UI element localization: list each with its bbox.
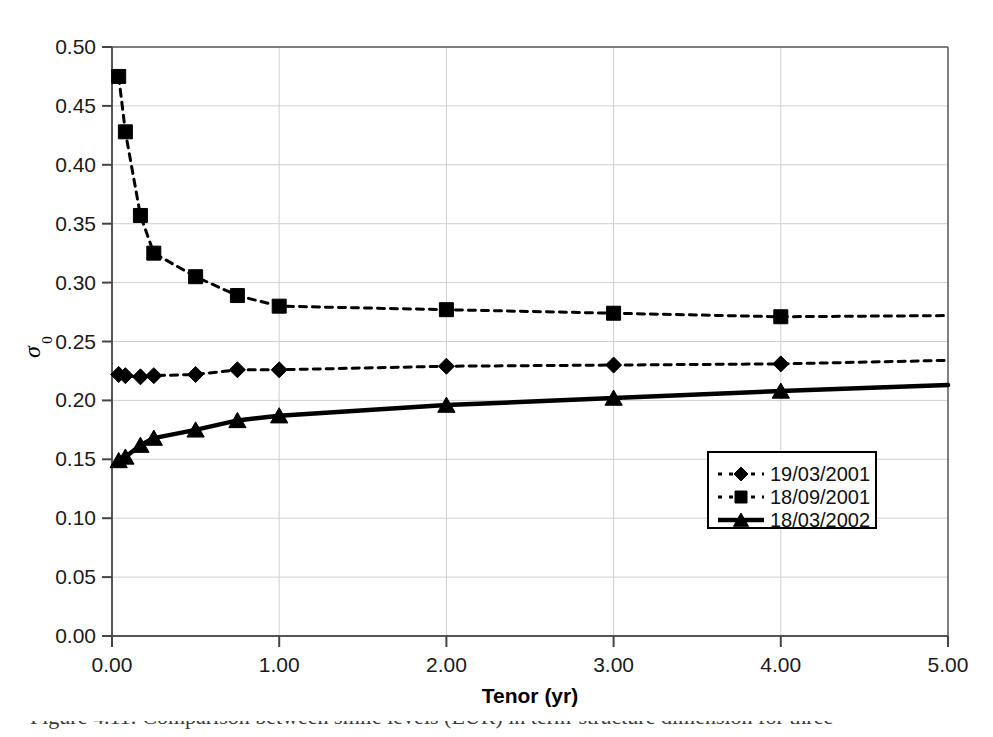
- y-tick-label: 0.30: [55, 271, 96, 294]
- y-tick-label: 0.35: [55, 212, 96, 235]
- legend-marker-square: [735, 491, 747, 503]
- figure-caption-strip: Figure 4.11: Comparison between smile le…: [0, 721, 993, 737]
- y-tick-label: 0.45: [55, 94, 96, 117]
- legend-label: 18/09/2001: [770, 486, 870, 508]
- data-point-square: [112, 69, 126, 83]
- y-axis-title-sigma: σ: [19, 345, 45, 358]
- data-point-square: [439, 303, 453, 317]
- chart-legend: 19/03/200118/09/200118/03/2002: [708, 452, 876, 531]
- x-tick-label: 1.00: [259, 653, 300, 676]
- y-tick-label: 0.40: [55, 153, 96, 176]
- y-tick-label: 0.15: [55, 447, 96, 470]
- x-axis-title: Tenor (yr): [482, 684, 578, 707]
- y-tick-label: 0.25: [55, 330, 96, 353]
- y-tick-label: 0.50: [55, 35, 96, 58]
- data-point-square: [272, 299, 286, 313]
- x-tick-label: 5.00: [928, 653, 969, 676]
- y-tick-label: 0.10: [55, 506, 96, 529]
- data-point-square: [133, 208, 147, 222]
- y-tick-label: 0.00: [55, 624, 96, 647]
- y-axis-title-subscript: 0: [39, 336, 55, 344]
- y-tick-label: 0.20: [55, 388, 96, 411]
- data-point-square: [189, 270, 203, 284]
- chart-figure: 0.000.050.100.150.200.250.300.350.400.45…: [0, 0, 993, 737]
- data-point-square: [147, 246, 161, 260]
- legend-label: 18/03/2002: [770, 509, 870, 531]
- legend-label: 19/03/2001: [770, 463, 870, 485]
- volatility-term-structure-chart: 0.000.050.100.150.200.250.300.350.400.45…: [0, 0, 993, 737]
- chart-background: [0, 0, 993, 737]
- data-point-square: [607, 306, 621, 320]
- x-tick-label: 2.00: [426, 653, 467, 676]
- y-tick-label: 0.05: [55, 565, 96, 588]
- x-tick-label: 0.00: [92, 653, 133, 676]
- data-point-square: [774, 310, 788, 324]
- x-tick-label: 4.00: [760, 653, 801, 676]
- x-tick-label: 3.00: [593, 653, 634, 676]
- figure-caption: Figure 4.11: Comparison between smile le…: [30, 721, 833, 730]
- data-point-square: [118, 125, 132, 139]
- data-point-square: [230, 289, 244, 303]
